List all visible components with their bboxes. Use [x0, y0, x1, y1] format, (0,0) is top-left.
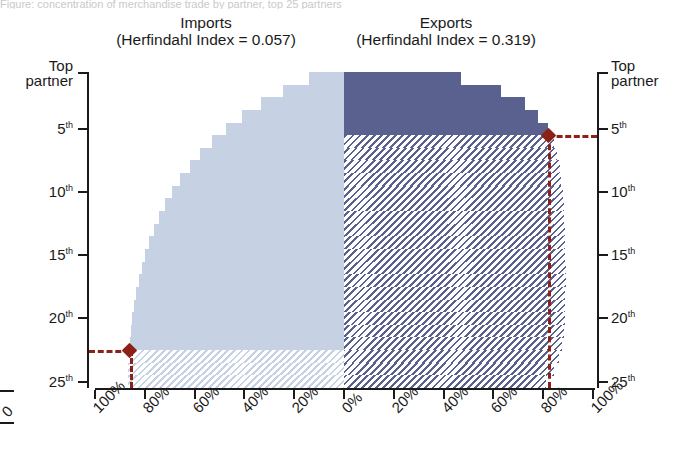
chart-band-imports-rank-21 [131, 325, 344, 338]
y-axis-left-label-25: 25th [0, 373, 73, 390]
chart-band-exports-rank-22 [344, 337, 562, 350]
y-axis-right-label-25-suffix: th [628, 373, 636, 383]
y-axis-right-label-10: 10th [611, 183, 681, 200]
y-axis-right-tick-10 [599, 191, 608, 193]
chart-band-imports-rank-23 [129, 350, 344, 363]
y-axis-right-label-20-suffix: th [628, 309, 636, 319]
exports-marker-leader-vertical [548, 135, 551, 388]
y-axis-right-label-15-value: 15 [611, 246, 628, 263]
y-axis-right-label-15: 15th [611, 246, 681, 263]
chart-band-exports-rank-24 [344, 363, 554, 376]
imports-herfindahl-index: (Herfindahl Index = 0.057) [86, 31, 326, 48]
chart-band-imports-rank-3 [261, 97, 344, 110]
chart-band-exports-rank-2 [344, 85, 501, 98]
chart-band-exports-rank-9 [344, 173, 561, 186]
y-axis-left-label-25-suffix: th [65, 373, 73, 383]
y-axis-right-tick-20 [599, 317, 608, 319]
chart-band-exports-rank-20 [344, 312, 565, 325]
chart-band-exports-rank-8 [344, 160, 560, 173]
y-axis-left-tick-15 [78, 254, 87, 256]
chart-band-exports-rank-1 [344, 72, 461, 85]
y-axis-left-tick-top [78, 72, 87, 74]
y-axis-left-tick-5 [78, 128, 87, 130]
x-axis-line [95, 388, 595, 390]
y-axis-right-label-20: 20th [611, 309, 681, 326]
chart-band-imports-rank-17 [139, 274, 344, 287]
chart-band-exports-rank-16 [344, 262, 566, 275]
y-axis-left-label-5-suffix: th [65, 120, 73, 130]
y-axis-right-label-top-line1: Top [611, 58, 686, 73]
y-axis-left-label-20: 20th [0, 309, 73, 326]
imports-panel-heading: Imports (Herfindahl Index = 0.057) [86, 14, 326, 48]
y-axis-right-label-15-suffix: th [628, 246, 636, 256]
chart-band-exports-rank-4 [344, 110, 538, 123]
chart-band-exports-rank-25 [344, 375, 546, 388]
exports-panel-heading: Exports (Herfindahl Index = 0.319) [326, 14, 566, 48]
y-axis-left-line [87, 72, 89, 388]
y-axis-right-tick-25 [599, 381, 608, 383]
chart-band-exports-rank-10 [344, 186, 563, 199]
chart-band-exports-rank-3 [344, 97, 525, 110]
chart-band-imports-rank-18 [136, 287, 344, 300]
chart-band-exports-rank-7 [344, 148, 557, 161]
y-axis-right-label-20-value: 20 [611, 309, 628, 326]
y-axis-left-tick-25 [78, 381, 87, 383]
exports-title: Exports [326, 14, 566, 31]
y-axis-left-label-20-suffix: th [65, 309, 73, 319]
y-axis-left-label-5: 5th [0, 120, 73, 137]
chart-band-exports-rank-23 [344, 350, 559, 363]
y-axis-right-label-5-suffix: th [619, 120, 627, 130]
chart-band-exports-rank-15 [344, 249, 565, 262]
cut-off-title-remnant: Figure: concentration of merchandise tra… [0, 0, 686, 9]
chart-band-imports-rank-24 [128, 363, 344, 376]
y-axis-right-tick-15 [599, 254, 608, 256]
y-axis-right-line [597, 72, 599, 388]
chart-band-exports-rank-11 [344, 198, 564, 211]
y-axis-left-label-15-value: 15 [49, 246, 66, 263]
y-axis-left-label-20-value: 20 [49, 309, 66, 326]
chart-band-exports-rank-21 [344, 325, 564, 338]
chart-band-imports-rank-5 [226, 123, 344, 136]
chart-plot-area [95, 72, 593, 388]
chart-band-exports-rank-14 [344, 236, 565, 249]
y-axis-left-label-15-suffix: th [65, 246, 73, 256]
y-axis-left-label-top-line1: Top [0, 58, 73, 73]
chart-band-exports-rank-17 [344, 274, 566, 287]
y-axis-left-label-10: 10th [0, 183, 73, 200]
chart-band-exports-rank-13 [344, 224, 565, 237]
chart-band-imports-rank-1 [309, 72, 344, 85]
chart-band-imports-rank-13 [154, 224, 344, 237]
y-axis-left-label-25-value: 25 [49, 373, 66, 390]
y-axis-left-label-top-line2: partner [0, 73, 73, 88]
chart-band-imports-rank-9 [180, 173, 344, 186]
y-axis-right-label-top-line2: partner [611, 73, 686, 88]
chart-band-imports-rank-7 [200, 148, 344, 161]
chart-band-imports-rank-22 [130, 337, 344, 350]
y-axis-right-label-5: 5th [611, 120, 681, 137]
y-axis-right-tick-5 [599, 128, 608, 130]
chart-band-imports-rank-11 [165, 198, 344, 211]
y-axis-left-label-top: Toppartner [0, 58, 73, 88]
y-axis-right-label-10-value: 10 [611, 183, 628, 200]
chart-band-exports-rank-6 [344, 135, 554, 148]
y-axis-left-label-10-suffix: th [65, 183, 73, 193]
imports-title: Imports [86, 14, 326, 31]
chart-band-imports-rank-20 [132, 312, 344, 325]
y-axis-left-tick-10 [78, 191, 87, 193]
chart-band-imports-rank-8 [190, 160, 344, 173]
chart-band-exports-rank-12 [344, 211, 564, 224]
exports-herfindahl-index: (Herfindahl Index = 0.319) [326, 31, 566, 48]
chart-band-imports-rank-14 [149, 236, 344, 249]
chart-band-exports-rank-18 [344, 287, 565, 300]
chart-band-imports-rank-19 [134, 300, 344, 313]
chart-band-imports-rank-6 [212, 135, 344, 148]
chart-band-exports-rank-5 [344, 123, 548, 136]
y-axis-left-label-10-value: 10 [49, 183, 66, 200]
chart-bands-clip [95, 72, 593, 388]
y-axis-left-label-15: 15th [0, 246, 73, 263]
chart-band-exports-rank-19 [344, 300, 565, 313]
chart-band-imports-rank-4 [242, 110, 344, 123]
y-axis-left-tick-20 [78, 317, 87, 319]
y-axis-right-label-10-suffix: th [628, 183, 636, 193]
chart-band-imports-rank-15 [145, 249, 344, 262]
